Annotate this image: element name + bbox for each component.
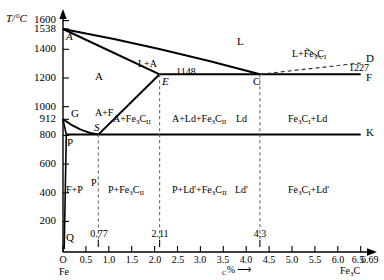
fe3cild-pre: Fe — [288, 113, 298, 124]
x-axis-title-arrow: ⟶ — [237, 264, 251, 275]
point-label-K: K — [366, 127, 374, 138]
x-tick-label-0-5: 0.5 — [76, 255, 96, 265]
region-label-austenite: A — [95, 71, 103, 82]
x-tick-label-4-5: 4.5 — [259, 255, 279, 265]
lfe3ci-mid: C — [317, 48, 324, 59]
region-label-ledeburite-prime: Ld' — [235, 185, 248, 195]
pldfe3cii-sup: II — [222, 189, 227, 197]
region-label-liquid: L — [237, 36, 244, 47]
fe3c-tail: C — [354, 265, 361, 276]
axis-end-label-Fe3C: Fe3C — [340, 266, 360, 278]
axis-lines — [59, 9, 377, 256]
region-label-pearlite: P — [91, 178, 97, 188]
x-tick-label-5-0: 5.0 — [282, 255, 302, 265]
region-label-austenite-cementite-II: A+Fe3CII — [113, 114, 151, 126]
y-axis-arrow — [59, 9, 66, 19]
region-label-austenite-ferrite: A+F — [95, 108, 113, 118]
pldfe3cii-mid: C — [215, 184, 222, 195]
pfe3cii-sup: II — [139, 189, 144, 197]
x-tick-label-1-0: 1.0 — [99, 255, 119, 265]
x-axis-title-pct: % — [227, 264, 235, 275]
x-tick-label-O: O — [53, 255, 73, 265]
fe3cildp-pre: Fe — [288, 184, 298, 195]
x-tick-label-2-5: 2.5 — [168, 255, 188, 265]
diagram-canvas — [0, 0, 384, 280]
point-label-G: G — [71, 108, 79, 119]
y-tick-label-200: 200 — [6, 215, 56, 226]
phase-boundaries — [63, 29, 361, 249]
x-tick-label-3-0: 3.0 — [190, 255, 210, 265]
afe3cii-pre: A+Fe — [113, 113, 136, 124]
point-label-P: P — [67, 137, 73, 148]
point-label-Q: Q — [66, 232, 74, 243]
x-tick-label-6-0: 6.0 — [328, 255, 348, 265]
y-tick-label-800: 800 — [6, 129, 56, 140]
x-axis-title: C%⟶ — [222, 265, 251, 277]
x-special-label-2-11: 2.11 — [145, 229, 175, 239]
point-label-E: E — [162, 76, 169, 87]
y-tick-label-600: 600 — [6, 158, 56, 169]
liquidus-AC — [63, 29, 260, 74]
region-label-ledeburite: Ld — [236, 114, 247, 124]
fe3c-pre: Fe — [340, 265, 350, 276]
aldfe3cii-mid: C — [215, 113, 222, 124]
point-label-C: C — [253, 76, 260, 87]
x-special-label-4-3: 4.3 — [248, 229, 272, 239]
liquidus-CD — [260, 63, 361, 74]
region-label-cementite-I-ledeburite-prime: Fe3CI+Ld' — [288, 185, 329, 197]
annotation-1148: 1148 — [176, 67, 196, 77]
GS-line — [63, 119, 98, 134]
y-tick-label-912: 912 — [6, 113, 56, 124]
y-tick-label-1200: 1200 — [6, 72, 56, 83]
aldfe3cii-sup: II — [222, 118, 227, 126]
lfe3ci-sup: I — [324, 53, 326, 61]
point-label-D: D — [366, 53, 374, 64]
point-label-F: F — [366, 72, 372, 83]
y-tick-label-1538: 1538 — [6, 23, 56, 34]
fe3cild-tail: +Ld — [311, 113, 328, 124]
point-label-A: A — [66, 31, 73, 42]
pfe3cii-pre: P+Fe — [108, 184, 129, 195]
x-tick-label-2-0: 2.0 — [145, 255, 165, 265]
x-tick-label-6-69: 6.69 — [361, 255, 384, 265]
region-label-cementite-I-ledeburite: Fe3CI+Ld — [288, 114, 327, 126]
x-tick-label-5-5: 5.5 — [305, 255, 325, 265]
region-label-austenite-ledeburite-cementite: A+Ld+Fe3CII — [172, 114, 226, 126]
phase-diagram-figure: T/°C 1600 1538 1400 1200 1000 912 800 60… — [0, 0, 384, 280]
x-tick-label-1-5: 1.5 — [122, 255, 142, 265]
region-label-pearlite-cementite-II: P+Fe3CII — [108, 185, 144, 197]
pldfe3cii-pre: P+Ld'+Fe — [172, 184, 212, 195]
x-tick-marks — [63, 240, 361, 252]
y-tick-label-400: 400 — [6, 187, 56, 198]
afe3cii-sup: II — [146, 118, 151, 126]
region-label-liquid-austenite: L+A — [138, 59, 157, 69]
composition-guidelines — [98, 74, 260, 243]
lfe3ci-pre: L+Fe — [292, 48, 314, 59]
point-label-S: S — [94, 122, 100, 133]
x-special-label-0-77: 0.77 — [84, 229, 114, 239]
y-tick-label-1000: 1000 — [6, 101, 56, 112]
y-tick-label-1400: 1400 — [6, 43, 56, 54]
axis-end-label-Fe: Fe — [52, 267, 76, 277]
region-label-pearlite-ledeburiteP-cementite: P+Ld'+Fe3CII — [172, 185, 227, 197]
fe3cildp-tail: +Ld' — [311, 184, 330, 195]
aldfe3cii-pre: A+Ld+Fe — [172, 113, 212, 124]
region-label-ferrite-pearlite: F+P — [66, 185, 83, 195]
region-label-liquid-cementite-I: L+Fe3CI — [292, 49, 326, 61]
